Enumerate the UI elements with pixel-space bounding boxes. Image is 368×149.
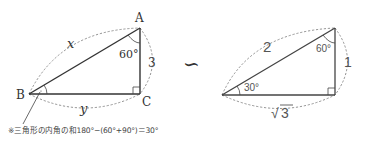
- angle-arc-left: [237, 86, 240, 95]
- angle-arc-top: [323, 35, 335, 43]
- label-angle-a: 60°: [119, 48, 139, 61]
- angle-sum-note: ※三角形の内角の和180°−(60°+90°)＝30°: [8, 124, 158, 135]
- label-base-3: 3: [281, 105, 289, 121]
- label-vertex-b: B: [16, 88, 25, 102]
- note-leader-line: [23, 92, 40, 124]
- angle-arc-a: [128, 35, 140, 43]
- side-ab: [29, 28, 140, 94]
- label-radical-sign: √: [271, 105, 279, 121]
- label-angle-60: 60°: [316, 43, 331, 54]
- label-side-x: x: [67, 36, 75, 51]
- label-side-3: 3: [148, 56, 156, 70]
- label-vertex-a: A: [134, 11, 144, 25]
- label-side-y: y: [79, 101, 88, 116]
- right-angle-mark: [328, 88, 335, 95]
- angle-dot-b: [40, 90, 41, 91]
- angle-arc-b: [44, 85, 47, 94]
- left-triangle: A B C 60° x 3 y: [16, 11, 156, 124]
- right-triangle: 30° 60° 2 1 √ 3: [222, 28, 352, 121]
- similar-symbol: ∽: [183, 52, 200, 76]
- label-side-1: 1: [344, 54, 352, 70]
- label-hypotenuse-2: 2: [263, 38, 271, 55]
- label-vertex-c: C: [142, 95, 151, 109]
- side-hypotenuse: [222, 28, 335, 95]
- right-angle-mark-c: [133, 87, 140, 94]
- label-angle-30: 30°: [244, 82, 259, 93]
